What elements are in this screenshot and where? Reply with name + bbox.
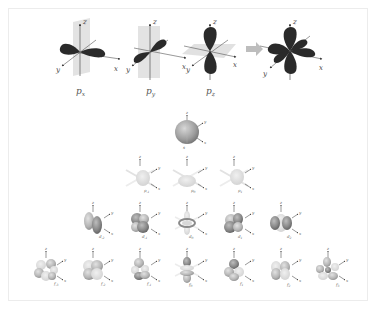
orbital-f-minus1: z y x f-1 <box>131 246 161 287</box>
svg-text:z: z <box>138 154 142 159</box>
orbital-label: px <box>76 86 86 97</box>
axis-y-label: y <box>55 66 61 74</box>
axis-z-label: z <box>152 18 157 26</box>
axis-x-label: x <box>233 61 237 69</box>
orbital-f-2: z y x f2 <box>271 246 302 288</box>
orbital-d-minus1: z y x d-1 <box>131 200 161 240</box>
axis-y-label: y <box>185 66 191 74</box>
orbital-label: d2 <box>287 234 292 240</box>
svg-text:x: x <box>158 186 161 191</box>
orbital-label: p0 <box>191 188 196 194</box>
axis-z-label: z <box>212 18 217 26</box>
svg-text:y: y <box>110 257 114 262</box>
svg-text:y: y <box>298 257 302 262</box>
orbital-py: z x y py <box>125 18 186 98</box>
svg-text:y: y <box>251 210 255 215</box>
orbital-p-1: z y x p1 <box>220 154 255 194</box>
svg-text:x: x <box>205 278 208 283</box>
orbital-label: py <box>146 86 156 98</box>
svg-text:x: x <box>252 231 255 236</box>
orbital-d-0: z y x d0 <box>175 200 208 240</box>
svg-text:y: y <box>251 165 255 170</box>
svg-text:y: y <box>345 257 349 262</box>
svg-text:z: z <box>138 246 142 251</box>
svg-text:x: x <box>64 278 67 283</box>
svg-text:z: z <box>232 200 236 205</box>
svg-text:x: x <box>205 231 208 236</box>
orbital-label: f2 <box>286 282 290 288</box>
svg-text:x: x <box>111 278 114 283</box>
axis-z-label: z <box>82 18 87 26</box>
svg-text:z: z <box>91 246 95 251</box>
axis-x-label: x <box>114 65 118 73</box>
svg-text:x: x <box>205 186 208 191</box>
orbital-d-1: z y x d1 <box>224 200 255 240</box>
orbital-label: f-1 <box>146 281 151 287</box>
orbital-d-minus2: z y x d-2 <box>84 200 114 240</box>
svg-text:y: y <box>157 257 161 262</box>
svg-text:y: y <box>157 210 161 215</box>
orbital-d-2: z y x d2 <box>270 200 302 240</box>
svg-text:x: x <box>252 278 255 283</box>
svg-text:y: y <box>204 257 208 262</box>
orbital-label: d-2 <box>99 234 105 240</box>
axis-y-label: y <box>125 66 131 74</box>
orbital-label: f3 <box>335 282 339 288</box>
orbital-label: f-3 <box>53 281 58 287</box>
orbital-label: s <box>183 145 185 150</box>
svg-text:y: y <box>63 257 67 262</box>
svg-text:z: z <box>91 200 95 205</box>
svg-text:y: y <box>203 119 207 124</box>
axis-y-label: y <box>262 70 268 78</box>
orbital-label: pz <box>206 86 216 97</box>
orbital-label: p1 <box>238 188 243 194</box>
svg-text:z: z <box>326 246 330 251</box>
combine-arrow-icon <box>246 42 263 56</box>
svg-text:x: x <box>299 278 302 283</box>
svg-text:y: y <box>298 210 302 215</box>
orbital-p-0: z y x p0 <box>173 154 208 194</box>
orbital-label: f-2 <box>100 281 105 287</box>
orbital-label: d-1 <box>142 234 148 240</box>
orbital-f-minus3: z y x f-3 <box>34 246 67 287</box>
svg-text:z: z <box>232 154 236 159</box>
svg-text:z: z <box>185 154 189 159</box>
svg-text:y: y <box>204 165 208 170</box>
plane <box>138 26 160 78</box>
svg-text:y: y <box>251 257 255 262</box>
orbital-p-minus1: z y x p-1 <box>126 154 161 194</box>
svg-text:y: y <box>110 210 114 215</box>
orbital-f-3: z y x f3 <box>316 246 349 288</box>
orbital-label: d0 <box>189 234 194 240</box>
axis-z-label: z <box>292 18 297 26</box>
svg-text:x: x <box>158 231 161 236</box>
axis-x-label: x <box>319 64 323 72</box>
svg-text:z: z <box>232 246 236 251</box>
orbital-label: f1 <box>239 281 243 287</box>
orbital-label: d1 <box>238 234 243 240</box>
svg-text:z: z <box>185 200 189 205</box>
svg-text:x: x <box>346 278 349 283</box>
svg-text:x: x <box>111 231 114 236</box>
orbital-px: z x y px <box>55 18 120 97</box>
svg-text:x: x <box>252 186 255 191</box>
orbital-label: p-1 <box>144 188 150 194</box>
svg-text:z: z <box>138 200 142 205</box>
orbital-p-combined: z x y <box>260 18 323 80</box>
orbital-pz: z x y pz <box>182 18 237 97</box>
svg-text:y: y <box>157 165 161 170</box>
svg-text:x: x <box>204 140 207 145</box>
orbital-s: z y x s <box>175 110 207 150</box>
plane <box>73 18 90 76</box>
svg-text:z: z <box>185 110 189 115</box>
svg-text:z: z <box>279 246 283 251</box>
orbital-f-minus2: z y x f-2 <box>83 246 114 287</box>
orbital-f-0: z y x f0 <box>175 246 208 288</box>
orbital-diagram: z x y px z x y py z x y pz <box>0 0 380 310</box>
orbital-label: f0 <box>188 282 192 288</box>
svg-text:y: y <box>204 210 208 215</box>
svg-text:z: z <box>279 200 283 205</box>
svg-text:z: z <box>185 246 189 251</box>
svg-text:x: x <box>299 231 302 236</box>
svg-text:z: z <box>44 246 48 251</box>
